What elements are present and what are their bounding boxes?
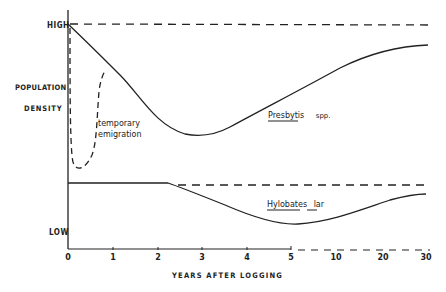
presbytis-baseline: [70, 24, 430, 25]
x-tick-20: 20: [377, 253, 388, 262]
x-tick-5: 5: [288, 253, 294, 262]
x-axis-title: YEARS AFTER LOGGING: [172, 271, 283, 280]
hylobates-species: lar: [314, 200, 324, 209]
y-label-low: LOW: [49, 228, 69, 237]
emigration-label-line2: emigration: [98, 130, 142, 139]
x-tick-30: 30: [420, 253, 431, 262]
x-tick-0: 0: [65, 253, 71, 262]
hylobates-label: Hylobates lar: [267, 200, 324, 209]
y-axis-title-line1: POPULATION: [15, 83, 67, 92]
chart-canvas: [0, 0, 446, 292]
x-tick-3: 3: [199, 253, 205, 262]
presbytis-label: Presbytis spp.: [268, 111, 331, 120]
y-label-high: HIGH: [47, 21, 70, 30]
presbytis-genus: Presbytis: [268, 111, 304, 120]
hylobates-genus: Hylobates: [267, 200, 307, 209]
x-tick-2: 2: [155, 253, 161, 262]
x-tick-10: 10: [330, 253, 341, 262]
presbytis-species: spp.: [316, 112, 331, 120]
emigration-curve: [70, 28, 106, 168]
hylobates-curve: [68, 183, 426, 224]
x-tick-4: 4: [244, 253, 250, 262]
emigration-label-line1: temporary: [98, 119, 140, 128]
x-tick-1: 1: [110, 253, 116, 262]
y-axis-title-line2: DENSITY: [24, 104, 62, 113]
